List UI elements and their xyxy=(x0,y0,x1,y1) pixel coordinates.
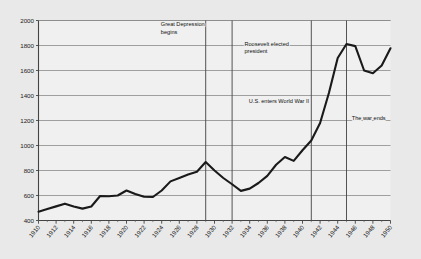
x-tick-label: 1912 xyxy=(45,223,60,238)
x-tick-label: 1916 xyxy=(80,223,95,238)
y-tick-label: 1200 xyxy=(20,117,34,124)
x-tick-label: 1946 xyxy=(344,223,359,238)
x-tick-label: 1910 xyxy=(27,223,42,238)
x-tick-label: 1944 xyxy=(326,223,341,238)
x-tick-label: 1924 xyxy=(150,223,165,238)
y-tick-label: 1800 xyxy=(20,42,34,49)
x-tick-label: 1914 xyxy=(62,223,77,238)
chart-container: 4006008001000120014001600180020001910191… xyxy=(0,0,421,259)
annotation-text-roosevelt-elected: Roosevelt elected xyxy=(244,41,288,47)
y-tick-label: 1400 xyxy=(20,92,34,99)
y-tick-label: 2000 xyxy=(20,17,34,24)
annotation-text-great-depression: begins xyxy=(161,29,178,35)
x-tick-label: 1934 xyxy=(238,223,253,238)
x-tick-label: 1936 xyxy=(256,223,271,238)
x-tick-label: 1922 xyxy=(133,223,148,238)
y-tick-label: 1600 xyxy=(20,67,34,74)
y-tick-label: 800 xyxy=(24,167,35,174)
y-tick-label: 400 xyxy=(24,217,35,224)
x-tick-label: 1932 xyxy=(221,223,236,238)
annotation-text-war-ends: The war ends xyxy=(352,115,386,121)
x-tick-label: 1926 xyxy=(168,223,183,238)
x-tick-label: 1918 xyxy=(97,223,112,238)
x-tick-label: 1948 xyxy=(361,223,376,238)
x-tick-label: 1930 xyxy=(203,223,218,238)
x-tick-label: 1940 xyxy=(291,223,306,238)
x-tick-label: 1920 xyxy=(115,223,130,238)
line-chart: 4006008001000120014001600180020001910191… xyxy=(0,0,421,259)
y-tick-label: 1000 xyxy=(20,142,34,149)
annotation-text-us-enters-wwii: U.S. enters World War II xyxy=(249,98,310,104)
annotation-text-roosevelt-elected: president xyxy=(244,48,267,54)
x-tick-label: 1950 xyxy=(379,223,394,238)
y-tick-label: 600 xyxy=(24,192,35,199)
annotation-text-great-depression: Great Depression xyxy=(161,21,205,27)
x-tick-label: 1942 xyxy=(309,223,324,238)
x-tick-label: 1938 xyxy=(273,223,288,238)
x-tick-label: 1928 xyxy=(185,223,200,238)
